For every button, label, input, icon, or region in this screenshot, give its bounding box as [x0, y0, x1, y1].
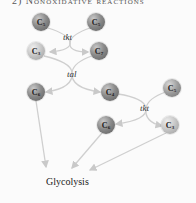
node-c4: C4: [101, 83, 119, 101]
enzyme-label-tal: tal: [67, 69, 77, 79]
node-c6-left: C6: [27, 83, 45, 101]
node-c7: C7: [90, 42, 108, 60]
node-c3-upper: C3: [27, 42, 45, 60]
node-c6-lower: C6: [97, 116, 115, 134]
node-c5-right: C5: [163, 79, 181, 97]
enzyme-label-tkt-2: tkt: [140, 103, 149, 113]
node-c5-top-right: C5: [87, 13, 105, 31]
enzyme-label-tkt-1: tkt: [63, 32, 72, 42]
node-c5-top-left: C5: [32, 13, 50, 31]
node-c3-lower: C3: [161, 116, 179, 134]
product-glycolysis: Glycolysis: [46, 176, 89, 187]
